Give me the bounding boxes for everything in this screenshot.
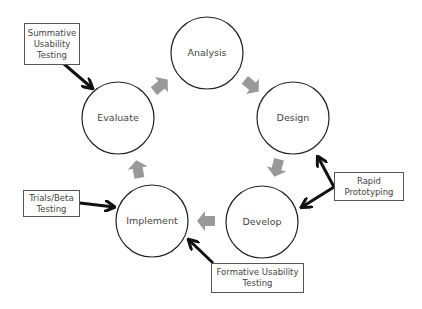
arrow-formative-to-implement — [189, 240, 213, 263]
annotation-rapid-prototyping: Rapid Prototyping — [334, 172, 404, 201]
annotation-line: Formative Usability — [217, 267, 299, 278]
annotation-line: Testing — [28, 50, 77, 61]
node-label-implement: Implement — [112, 215, 192, 227]
annotation-line: Prototyping — [345, 187, 394, 198]
annotation-line: Testing — [217, 278, 299, 289]
node-label-evaluate: Evaluate — [78, 112, 158, 124]
annotation-trials-beta-testing: Trials/Beta Testing — [23, 190, 80, 217]
annotation-summative-usability-testing: Summative Usability Testing — [24, 23, 80, 65]
annotation-formative-usability-testing: Formative Usability Testing — [211, 263, 304, 293]
node-label-analysis: Analysis — [167, 47, 247, 59]
arrow-rapid-to-develop — [302, 187, 334, 207]
annotation-line: Summative — [28, 28, 77, 39]
cycle-arrow-develop-to-implement — [197, 211, 215, 231]
annotation-line: Testing — [29, 204, 73, 215]
annotation-line: Trials/Beta — [29, 193, 73, 204]
arrow-rapid-to-design — [318, 157, 334, 187]
annotation-line: Rapid — [345, 176, 394, 187]
annotation-line: Usability — [28, 39, 77, 50]
cycle-arrow-evaluate-to-analysis — [147, 72, 174, 99]
node-label-develop: Develop — [222, 216, 302, 228]
arrow-trials-to-implement — [80, 203, 114, 207]
cycle-arrow-analysis-to-design — [238, 72, 265, 99]
node-label-design: Design — [253, 112, 333, 124]
cycle-arrow-implement-to-evaluate — [126, 158, 149, 179]
arrow-summative-to-evaluate — [64, 64, 92, 88]
cycle-arrow-design-to-develop — [265, 157, 289, 180]
